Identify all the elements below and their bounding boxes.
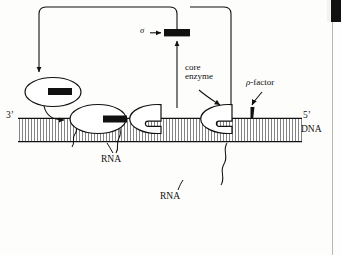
holoenzyme-recycle-path	[39, 7, 177, 72]
rho-factor-suffix: -factor	[250, 77, 274, 87]
rho-factor-wedge[interactable]	[251, 107, 255, 118]
rna-label-right: RNA	[160, 192, 180, 202]
rna-strand-long	[221, 143, 227, 185]
rna-label-left: RNA	[101, 155, 121, 165]
sigma-factor-bar-free[interactable]	[48, 88, 72, 95]
dna-label: DNA	[301, 125, 322, 135]
rho-factor-shape[interactable]	[251, 107, 255, 118]
rho-factor-leader	[252, 92, 262, 105]
five-prime-label: 5’	[303, 111, 311, 121]
core-enzyme-leader	[199, 90, 220, 105]
three-prime-label: 3’	[6, 111, 14, 121]
rna-label-leader-2	[178, 180, 183, 190]
initiating-polymerase[interactable]	[70, 105, 127, 134]
core-enzyme-label-line2: enzyme	[185, 72, 213, 81]
core-enzyme-label: core enzyme	[185, 63, 213, 82]
rho-factor-label: ρ-factor	[246, 78, 274, 87]
transcription-cycle-diagram	[0, 0, 341, 255]
rna-label-leader-1	[107, 143, 113, 153]
corner-marker-block	[331, 0, 341, 22]
sigma-factor-bar-bound[interactable]	[103, 116, 127, 123]
core-enzyme-return-path	[190, 7, 231, 104]
figure-canvas: σ core enzyme ρ-factor 3’ 5’ DNA RNA RNA	[0, 0, 341, 255]
sigma-factor-bar-recycled[interactable]	[164, 29, 190, 36]
page-rule	[332, 0, 333, 255]
free-holoenzyme[interactable]	[25, 78, 81, 107]
sigma-label: σ	[140, 26, 144, 35]
